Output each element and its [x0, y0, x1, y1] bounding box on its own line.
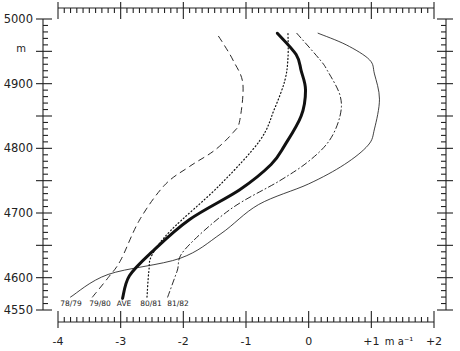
x-tick-label: +2 [426, 335, 442, 348]
y-tick-label: 4550 [4, 303, 33, 317]
y-tick-label: 4600 [4, 271, 33, 285]
x-tick-label: +1 [363, 335, 379, 348]
curve-78-79 [71, 33, 380, 297]
series-label-80-81: 80/81 [140, 299, 162, 308]
x-unit-label: m a⁻¹ [385, 336, 413, 347]
tick-labels: -4-3-2-10+1+2m a⁻¹4550460047004800490050… [4, 12, 442, 348]
x-tick-label: -2 [178, 335, 189, 348]
axes [36, 2, 453, 328]
x-tick-label: -4 [53, 335, 64, 348]
series-label-81-82: 81/82 [167, 299, 189, 308]
x-tick-label: 0 [305, 335, 312, 348]
series-label-ave: AVE [117, 299, 132, 308]
y-unit-label: m [16, 43, 26, 54]
series-label-79-80: 79/80 [89, 299, 111, 308]
curves [71, 33, 380, 298]
curve-81-82 [168, 33, 342, 297]
curve-79-80 [92, 35, 243, 297]
series-labels: 78/7979/80AVE80/8181/82 [60, 299, 189, 308]
y-tick-label: 4900 [4, 77, 33, 91]
y-tick-label: 4700 [4, 206, 33, 220]
x-tick-label: -1 [241, 335, 252, 348]
mass-balance-profile-chart: -4-3-2-10+1+2m a⁻¹4550460047004800490050… [0, 0, 460, 351]
curve-80-81 [147, 33, 288, 297]
series-label-78-79: 78/79 [60, 299, 82, 308]
y-tick-label: 5000 [4, 12, 33, 26]
x-tick-label: -3 [115, 335, 126, 348]
y-tick-label: 4800 [4, 141, 33, 155]
